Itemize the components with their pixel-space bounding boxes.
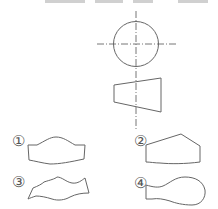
option-3-label: ③ — [12, 175, 25, 190]
option-4-shape — [146, 177, 205, 205]
front-view-trapezoid — [114, 78, 161, 112]
option-3-shape — [28, 177, 89, 200]
option-2-label: ② — [134, 134, 147, 149]
section-view-diagram: ① ② ③ ④ — [0, 0, 218, 209]
option-2-shape — [146, 134, 200, 164]
option-1-label: ① — [12, 134, 25, 149]
option-1-shape — [28, 137, 85, 164]
option-4-label: ④ — [134, 176, 147, 191]
drawing-svg — [0, 0, 218, 209]
